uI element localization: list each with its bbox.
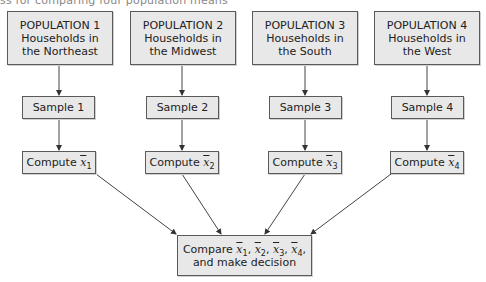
sample-4-box: Sample 4 [391,96,464,119]
sample-label: Sample 1 [33,101,85,114]
compare-decision-box: Compare x1, x2, x3, x4, and make decisio… [177,235,312,276]
population-title: POPULATION 2 [143,19,223,32]
population-desc-line1: Households in [144,32,221,45]
compute-2-box: Compute x2 [145,151,219,174]
sample-label: Sample 3 [280,101,332,114]
population-2-box: POPULATION 2 Households in the Midwest [130,11,236,65]
population-title: POPULATION 3 [265,19,345,32]
population-desc-line1: Households in [21,32,98,45]
compute-label: Compute [273,156,323,169]
subscript: 2 [209,162,214,171]
compare-label: Compare [183,243,233,256]
compute-label: Compute [395,156,445,169]
population-desc-line2: the Midwest [150,45,217,58]
sample-label: Sample 4 [402,101,454,114]
subscript: 1 [86,162,91,171]
compute-label: Compute [150,156,200,169]
sample-1-box: Sample 1 [22,96,95,119]
population-desc-line2: the Northeast [22,45,98,58]
sample-label: Sample 2 [157,101,209,114]
subscript: 3 [332,162,337,171]
compute-1-box: Compute x1 [22,151,96,174]
population-title: POPULATION 1 [20,19,100,32]
compare-line2: and make decision [193,256,296,269]
subscript: 4 [454,162,459,171]
population-desc-line2: the South [278,45,332,58]
sample-2-box: Sample 2 [146,96,219,119]
compute-label: Compute [27,156,77,169]
population-3-box: POPULATION 3 Households in the South [252,11,358,65]
population-desc-line2: the West [403,45,452,58]
compute-4-box: Compute x4 [390,151,464,174]
sample-3-box: Sample 3 [269,96,342,119]
population-desc-line1: Households in [388,32,465,45]
population-4-box: POPULATION 4 Households in the West [374,11,480,65]
compute-3-box: Compute x3 [268,151,342,174]
population-desc-line1: Households in [266,32,343,45]
subscript: 4 [297,249,302,258]
population-1-box: POPULATION 1 Households in the Northeast [7,11,113,65]
population-title: POPULATION 4 [387,19,467,32]
